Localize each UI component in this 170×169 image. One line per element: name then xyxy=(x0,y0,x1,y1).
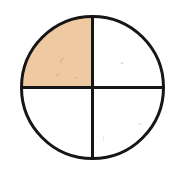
quarter-circle-diagram xyxy=(0,0,170,169)
scan-speck xyxy=(120,62,123,64)
scan-speck xyxy=(139,123,142,125)
scan-speck xyxy=(75,77,77,79)
figure-container xyxy=(0,0,170,169)
